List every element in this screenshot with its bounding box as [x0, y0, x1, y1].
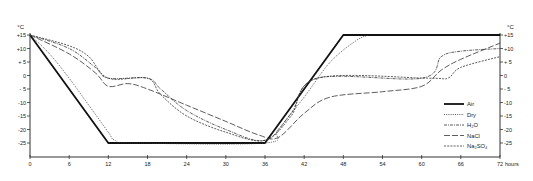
x-tick-label: 42: [301, 161, 307, 167]
x-tick-label: 30: [223, 161, 229, 167]
y-tick-label-left: +10: [17, 46, 26, 52]
x-tick-label: 72: [497, 161, 503, 167]
y-unit-right: °C: [507, 24, 514, 30]
y-tick-label-left: - 5: [20, 86, 26, 92]
y-tick-label-left: -20: [18, 127, 26, 133]
x-tick-label: 0: [28, 161, 31, 167]
y-tick-label-right: -20: [504, 127, 512, 133]
x-tick-label: 24: [184, 161, 190, 167]
x-tick-label: 54: [379, 161, 385, 167]
y-tick-label-right: -10: [504, 100, 512, 106]
x-tick-label: 36: [262, 161, 268, 167]
y-tick-label-right: +15: [504, 32, 513, 38]
y-unit-left: °C: [17, 24, 24, 30]
x-tick-label: 48: [340, 161, 346, 167]
temperature-chart: °C°C+15+15+10+10+ 5+ 500- 5- 5-10-10-15-…: [0, 0, 533, 181]
x-tick-label: 18: [144, 161, 150, 167]
chart-canvas: °C°C+15+15+10+10+ 5+ 500- 5- 5-10-10-15-…: [0, 0, 533, 181]
x-tick-label: 6: [68, 161, 71, 167]
legend-label-air: Air: [467, 101, 474, 107]
y-tick-label-left: + 5: [18, 59, 26, 65]
y-tick-label-right: - 5: [504, 86, 510, 92]
series-line-nacl: [30, 35, 500, 139]
y-tick-label-left: -15: [18, 113, 26, 119]
y-tick-label-right: -25: [504, 140, 512, 146]
y-tick-label-left: +15: [17, 32, 26, 38]
legend-label-na2so4: Na₂SO₄: [467, 143, 488, 149]
y-tick-label-left: -10: [18, 100, 26, 106]
y-tick-label-right: 0: [504, 73, 507, 79]
axes: °C°C+15+15+10+10+ 5+ 500- 5- 5-10-10-15-…: [17, 24, 519, 167]
y-tick-label-left: 0: [23, 73, 26, 79]
legend-label-h2o: H₂O: [467, 122, 478, 128]
data-lines: [30, 35, 500, 144]
series-line-na2so4: [30, 35, 500, 141]
y-tick-label-right: + 5: [504, 59, 512, 65]
x-tick-label: 12: [105, 161, 111, 167]
series-line-dry: [30, 35, 369, 144]
series-line-air: [30, 35, 500, 143]
y-tick-label-right: -15: [504, 113, 512, 119]
y-tick-label-left: -25: [18, 140, 26, 146]
legend: AirDryH₂ONaClNa₂SO₄: [444, 101, 488, 149]
x-tick-label: 66: [458, 161, 464, 167]
x-unit-label: hours: [505, 161, 519, 167]
legend-label-dry: Dry: [467, 112, 476, 118]
x-tick-label: 60: [419, 161, 425, 167]
y-tick-label-right: +10: [504, 46, 513, 52]
series-line-h2o: [30, 35, 500, 141]
legend-label-nacl: NaCl: [467, 133, 480, 139]
